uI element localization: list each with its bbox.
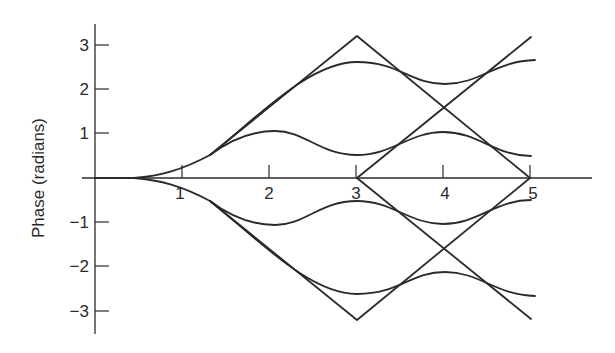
y-tick-label: −1 bbox=[70, 213, 89, 232]
y-tick-label: −2 bbox=[70, 257, 89, 276]
x-tick-label: 4 bbox=[440, 184, 449, 203]
phase-chart: 3 2 1 −1 −2 −3 1 2 3 4 5 Phase (radians) bbox=[0, 0, 615, 353]
y-tick-label: 3 bbox=[80, 36, 89, 55]
y-tick-label: 1 bbox=[80, 124, 89, 143]
inner-curve-lower bbox=[210, 200, 531, 225]
upper-triangle-line bbox=[134, 36, 530, 178]
inner-curve-upper bbox=[210, 131, 531, 156]
y-tick-label: −3 bbox=[70, 302, 89, 321]
lower-triangle-line bbox=[134, 178, 530, 320]
x-ticks bbox=[182, 165, 530, 178]
y-tick-label: 2 bbox=[80, 80, 89, 99]
y-axis-label: Phase (radians) bbox=[29, 118, 48, 238]
x-tick-label: 2 bbox=[264, 184, 273, 203]
